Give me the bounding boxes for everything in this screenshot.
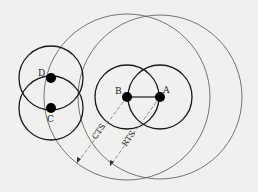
diagram-svg: D C B A CTS RTS — [0, 0, 258, 192]
rts-dashed-line — [110, 97, 160, 166]
node-d-label: D — [38, 68, 45, 78]
cts-label: CTS — [90, 122, 107, 141]
node-b — [122, 92, 132, 102]
node-c — [46, 103, 56, 113]
cts-arrowhead-icon — [77, 157, 81, 163]
diagram-canvas: D C B A CTS RTS — [0, 0, 258, 192]
node-b-label: B — [115, 86, 122, 96]
node-a-label: A — [162, 85, 170, 95]
node-d — [46, 73, 56, 83]
node-c-label: C — [47, 114, 54, 124]
